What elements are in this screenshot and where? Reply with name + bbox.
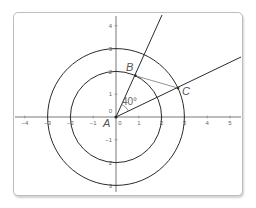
point-c-label: C	[182, 85, 190, 97]
svg-text:4: 4	[109, 23, 113, 29]
svg-text:4: 4	[206, 120, 210, 126]
svg-text:−4: −4	[21, 120, 29, 126]
svg-text:0: 0	[118, 120, 122, 126]
svg-text:0: 0	[109, 108, 113, 114]
angle-label: 40°	[122, 96, 137, 107]
y-tick-labels: 4 3 2 1 0 −1 2 3	[105, 23, 113, 189]
svg-text:1: 1	[109, 91, 113, 97]
svg-text:1: 1	[137, 120, 141, 126]
point-c	[177, 87, 180, 90]
svg-text:5: 5	[228, 120, 232, 126]
point-a	[114, 115, 117, 118]
x-tick-labels: −4 −3 −2 −1 0 1 2 3 4 5	[21, 120, 232, 126]
geometry-figure: −4 −3 −2 −1 0 1 2 3 4 5 4 3 2 1 0 −	[0, 0, 256, 208]
point-b	[134, 74, 137, 77]
point-b-label: B	[126, 61, 133, 73]
coordinate-plane: −4 −3 −2 −1 0 1 2 3 4 5 4 3 2 1 0 −	[0, 0, 256, 208]
point-a-label: A	[102, 117, 110, 129]
svg-text:−1: −1	[90, 120, 98, 126]
svg-text:−1: −1	[105, 137, 113, 143]
